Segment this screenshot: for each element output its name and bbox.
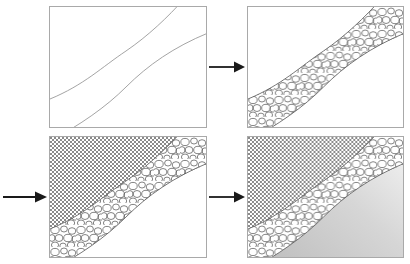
panel-4-diagram (248, 137, 403, 257)
arrow-right-icon (208, 188, 246, 206)
flow-arrow-step3-step4 (208, 188, 246, 206)
flow-arrow-step2-step3 (2, 188, 48, 206)
panel-1-diagram (50, 7, 206, 127)
panel-step-1 (49, 6, 207, 128)
arrow-right-icon (208, 58, 246, 76)
panel-2-diagram (248, 7, 403, 127)
panel-1-background (50, 7, 206, 127)
panel-step-4 (247, 136, 404, 258)
figure-root (0, 0, 410, 264)
flow-arrow-step1-step2 (208, 58, 246, 76)
panel-3-diagram (50, 137, 206, 257)
panel-step-2 (247, 6, 404, 128)
arrow-right-icon (2, 188, 48, 206)
panel-step-3 (49, 136, 207, 258)
